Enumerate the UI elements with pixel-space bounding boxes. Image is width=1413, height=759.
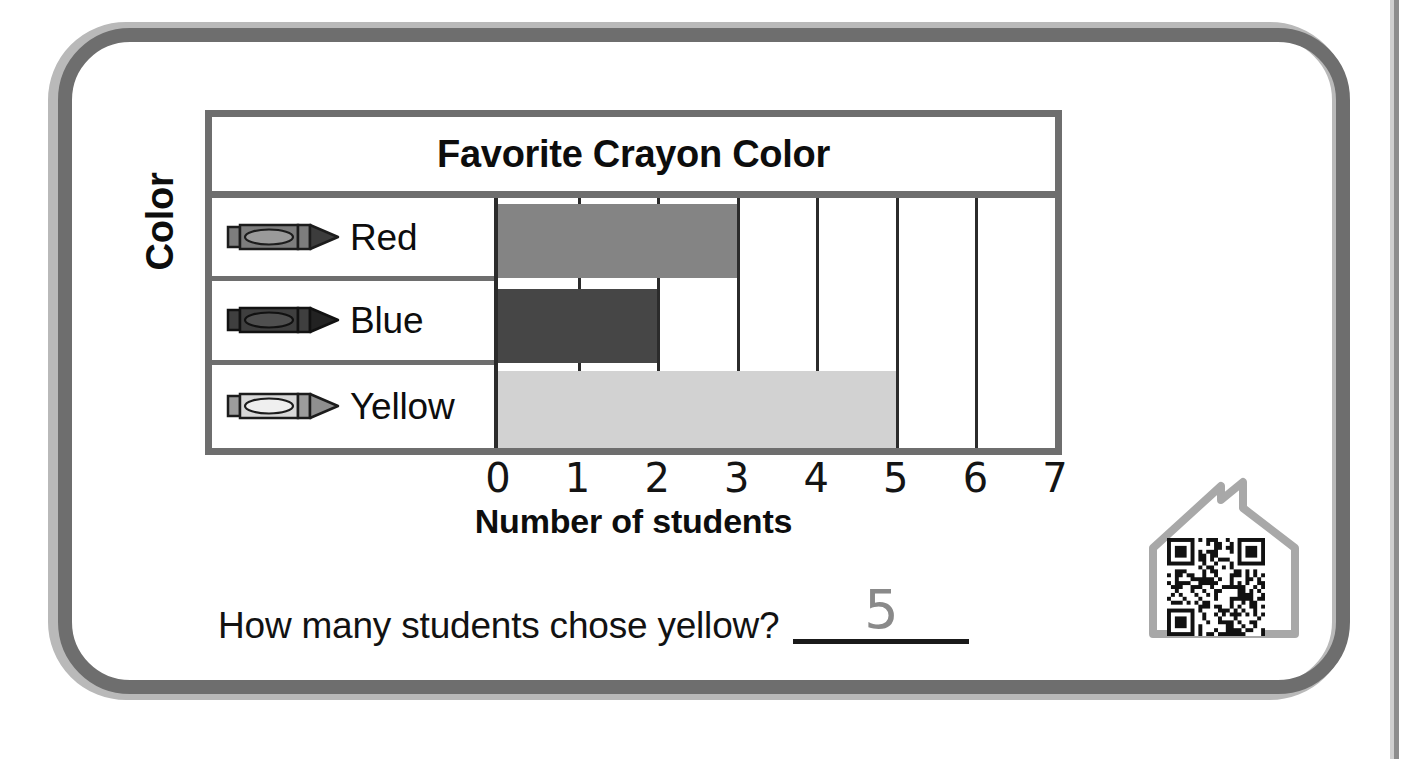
gridline-5: [896, 198, 899, 448]
gridline-6: [975, 198, 978, 448]
crayon-icon: [226, 303, 344, 337]
page-edge-line: [1394, 0, 1399, 759]
category-label: Yellow: [350, 388, 454, 425]
category-row-blue: Blue: [212, 281, 494, 364]
crayon-icon: [226, 220, 344, 254]
category-row-yellow: Yellow: [212, 365, 494, 448]
category-label-column: Red Blue Y: [212, 198, 498, 448]
answer-blank[interactable]: 5: [793, 592, 969, 644]
chart-title: Favorite Crayon Color: [437, 133, 830, 176]
x-tick-5: 5: [883, 458, 908, 498]
x-tick-0: 0: [485, 458, 510, 498]
category-label: Blue: [350, 302, 423, 339]
x-axis-ticks: 01234567: [205, 458, 1062, 506]
house-qr-icon[interactable]: [1143, 470, 1323, 648]
plot-area: Red Blue Y: [205, 198, 1062, 455]
category-row-red: Red: [212, 198, 494, 281]
y-axis-title: Color: [139, 122, 182, 322]
x-tick-1: 1: [565, 458, 590, 498]
question-row: How many students chose yellow? 5: [218, 592, 969, 644]
question-text: How many students chose yellow?: [218, 607, 779, 644]
chart-title-box: Favorite Crayon Color: [205, 110, 1062, 198]
bar-yellow: [498, 371, 896, 449]
x-tick-4: 4: [804, 458, 829, 498]
x-tick-2: 2: [644, 458, 669, 498]
crayon-icon: [226, 389, 344, 423]
qr-code: [1167, 538, 1265, 636]
x-tick-6: 6: [963, 458, 988, 498]
bar-chart: Favorite Crayon Color Red: [205, 110, 1062, 455]
x-tick-3: 3: [724, 458, 749, 498]
plot-grid: [498, 198, 1055, 448]
x-axis-title: Number of students: [205, 502, 1062, 541]
category-label: Red: [350, 219, 417, 256]
bar-red: [498, 204, 737, 278]
answer-value: 5: [864, 583, 898, 637]
bar-blue: [498, 289, 657, 363]
x-tick-7: 7: [1042, 458, 1067, 498]
